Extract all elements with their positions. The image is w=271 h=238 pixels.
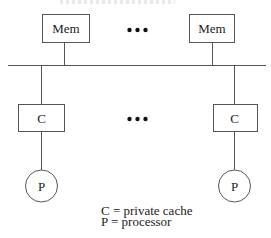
- processor-label: P: [231, 179, 238, 194]
- cache-2: C: [214, 105, 258, 132]
- memory-label: Mem: [52, 21, 79, 36]
- memory-module-1: Mem: [43, 15, 90, 43]
- processor-1: P: [26, 170, 58, 202]
- processor-2: P: [219, 170, 251, 202]
- memory-module-2: Mem: [190, 15, 235, 43]
- cache-1: C: [19, 105, 65, 132]
- cache-label: C: [37, 111, 46, 126]
- memory-label: Mem: [198, 21, 225, 36]
- memory-ellipsis: [127, 28, 147, 32]
- legend: C = private cache P = processor: [101, 205, 192, 227]
- cache-label: C: [230, 111, 239, 126]
- processor-label: P: [38, 179, 45, 194]
- cache-ellipsis: [127, 117, 147, 121]
